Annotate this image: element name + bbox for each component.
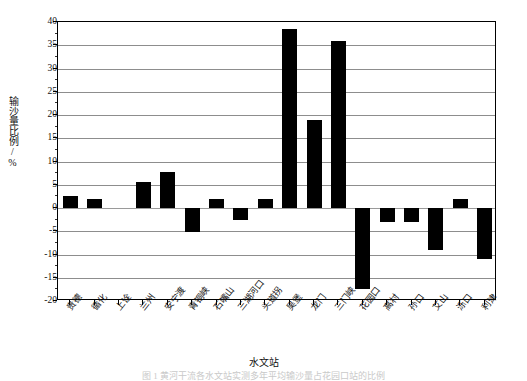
x-axis-title: 水文站 [0, 357, 527, 369]
gridline [58, 278, 495, 279]
bar [87, 199, 102, 208]
bar [331, 41, 346, 208]
x-axis-tick-labels: 贵德循化上诠兰州安宁渡青铜峡石嘴山三湖河口头道拐吴堡龙门三门峡花园口高村孙口艾山… [57, 306, 496, 358]
bar-chart-figure: 输沙量比例/% 4035302520151050-5-10-15-20 贵德循化… [0, 0, 527, 381]
bar [63, 196, 78, 208]
plot-area [57, 21, 496, 300]
gridline [58, 185, 495, 186]
y-axis-ticks: 4035302520151050-5-10-15-20 [17, 21, 57, 300]
gridline [58, 69, 495, 70]
bar [258, 199, 273, 208]
bar [355, 208, 370, 289]
bar [380, 208, 395, 222]
gridline [58, 92, 495, 93]
bar [307, 120, 322, 208]
bar [282, 29, 297, 208]
y-axis-title: 输沙量比例/% [2, 96, 18, 168]
gridline [58, 255, 495, 256]
gridline [58, 138, 495, 139]
gridline [58, 115, 495, 116]
bar [428, 208, 443, 250]
bar [209, 199, 224, 208]
bar [453, 199, 468, 208]
bar [477, 208, 492, 259]
bar [136, 182, 151, 208]
bar [160, 172, 175, 208]
gridline [58, 162, 495, 163]
bar [404, 208, 419, 222]
bar [185, 208, 200, 232]
figure-caption: 图 1 黄河干流各水文站实测多年平均输沙量占花园口站的比例 [0, 371, 527, 381]
bar [233, 208, 248, 220]
gridline [58, 45, 495, 46]
